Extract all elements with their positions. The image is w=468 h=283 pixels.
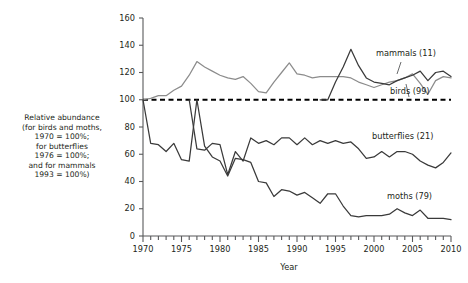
x-tick-label-2005: 2005 bbox=[397, 244, 429, 254]
y-tick-label-80: 80 bbox=[95, 122, 135, 132]
x-tick-label-1995: 1995 bbox=[320, 244, 352, 254]
y-tick-label-140: 140 bbox=[95, 40, 135, 50]
x-tick-label-1980: 1980 bbox=[204, 244, 236, 254]
series-label-birds: birds (99) bbox=[390, 86, 430, 96]
x-tick-label-2000: 2000 bbox=[358, 244, 390, 254]
y-tick-label-20: 20 bbox=[95, 203, 135, 213]
chart-figure: Relative abundance (for birds and moths,… bbox=[0, 0, 468, 283]
series-label-mammals: mammals (11) bbox=[376, 48, 436, 58]
x-tick-label-1985: 1985 bbox=[243, 244, 275, 254]
x-axis-title: Year bbox=[259, 262, 319, 272]
x-tick-label-1970: 1970 bbox=[127, 244, 159, 254]
chart-plot-area bbox=[0, 0, 468, 283]
x-tick-label-1975: 1975 bbox=[166, 244, 198, 254]
y-tick-label-100: 100 bbox=[95, 94, 135, 104]
x-tick-label-1990: 1990 bbox=[281, 244, 313, 254]
y-tick-label-160: 160 bbox=[95, 13, 135, 23]
y-tick-label-40: 40 bbox=[95, 176, 135, 186]
y-tick-label-0: 0 bbox=[95, 231, 135, 241]
series-label-butterflies: butterflies (21) bbox=[372, 131, 433, 141]
y-tick-label-120: 120 bbox=[95, 67, 135, 77]
series-label-moths: moths (79) bbox=[387, 191, 432, 201]
x-tick-label-2010: 2010 bbox=[435, 244, 467, 254]
y-tick-label-60: 60 bbox=[95, 149, 135, 159]
